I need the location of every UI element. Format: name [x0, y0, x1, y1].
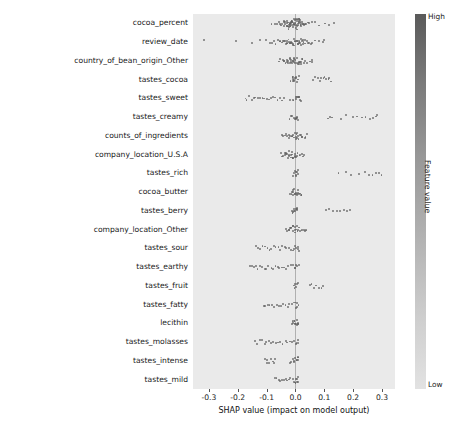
scatter-row	[193, 332, 395, 352]
scatter-row	[193, 88, 395, 108]
data-point	[294, 267, 296, 269]
data-point	[264, 343, 266, 345]
data-point	[297, 246, 299, 248]
y-tick-label: cocoa_butter	[139, 187, 188, 197]
colorbar-title: Feature value	[423, 160, 432, 213]
data-point	[296, 132, 298, 134]
data-point	[300, 63, 302, 65]
data-point	[338, 172, 340, 174]
data-point	[298, 75, 300, 77]
y-tick-label: tastes_sweet	[139, 93, 188, 103]
data-point	[318, 40, 320, 42]
data-point	[296, 155, 298, 157]
scatter-row	[193, 238, 395, 258]
data-point	[279, 97, 281, 99]
data-point	[314, 21, 316, 23]
data-point	[267, 265, 269, 267]
data-point	[235, 40, 237, 42]
data-point	[343, 209, 345, 211]
shap-summary-plot: cocoa_percentreview_datecountry_of_bean_…	[0, 0, 464, 434]
data-point	[311, 59, 313, 61]
scatter-row	[193, 126, 395, 146]
data-point	[292, 264, 294, 266]
data-point	[293, 340, 295, 342]
x-tick-label: 0.0	[289, 393, 301, 402]
scatter-row	[193, 145, 395, 165]
data-point	[306, 229, 308, 231]
data-point	[278, 267, 280, 269]
data-point	[276, 377, 278, 379]
data-point	[271, 23, 273, 25]
data-point	[292, 250, 294, 252]
data-point	[296, 306, 298, 308]
data-point	[295, 76, 297, 78]
data-point	[264, 246, 266, 248]
data-point	[319, 80, 321, 82]
scatter-row	[193, 313, 395, 333]
data-point	[263, 98, 265, 100]
data-point	[301, 136, 303, 138]
scatter-row	[193, 70, 395, 90]
data-point	[356, 116, 358, 118]
data-point	[292, 26, 294, 28]
x-tick-label: 0.2	[347, 393, 359, 402]
data-point	[339, 210, 341, 212]
data-point	[328, 208, 330, 210]
data-point	[246, 99, 248, 101]
data-point	[333, 22, 335, 24]
data-point	[272, 341, 274, 343]
data-point	[266, 362, 268, 364]
data-point	[314, 40, 316, 42]
data-point	[265, 39, 267, 41]
data-point	[281, 100, 283, 102]
data-point	[294, 232, 296, 234]
data-point	[282, 303, 284, 305]
scatter-row	[193, 107, 395, 127]
scatter-row	[193, 51, 395, 71]
data-point	[336, 210, 338, 212]
data-point	[287, 265, 289, 267]
x-tick-label: 0.3	[376, 393, 388, 402]
data-point	[298, 250, 300, 252]
data-point	[271, 42, 273, 44]
data-point	[296, 209, 298, 211]
data-point	[277, 99, 279, 101]
data-point	[369, 118, 371, 120]
data-point	[279, 249, 281, 251]
y-tick-label: tastes_sour	[144, 243, 188, 253]
data-point	[276, 23, 278, 25]
data-point	[274, 97, 276, 99]
x-tick-mark	[238, 389, 239, 392]
data-point	[281, 245, 283, 247]
data-point	[268, 362, 270, 364]
data-point	[358, 173, 360, 175]
y-tick-label: tastes_intense	[133, 356, 188, 366]
data-point	[297, 323, 299, 325]
data-point	[306, 133, 308, 135]
y-tick-label: tastes_earthy	[136, 262, 188, 272]
data-point	[255, 265, 257, 267]
data-point	[251, 42, 253, 44]
data-point	[262, 245, 264, 247]
data-point	[345, 171, 347, 173]
data-point	[376, 114, 378, 116]
data-point	[312, 79, 314, 81]
x-tick-label: -0.3	[201, 393, 216, 402]
data-point	[288, 303, 290, 305]
data-point	[375, 172, 377, 174]
y-tick-label: tastes_molasses	[126, 337, 188, 347]
data-point	[297, 282, 299, 284]
y-tick-label: country_of_bean_origin_Other	[74, 56, 188, 66]
data-point	[296, 81, 298, 83]
data-point	[345, 114, 347, 116]
data-point	[295, 98, 297, 100]
scatter-row	[193, 276, 395, 296]
data-point	[251, 99, 253, 101]
scatter-row	[193, 220, 395, 240]
data-point	[331, 117, 333, 119]
data-point	[311, 61, 313, 63]
y-tick-label: company_location_U.S.A	[95, 150, 188, 160]
data-point	[300, 100, 302, 102]
data-point	[317, 77, 319, 79]
data-point	[295, 286, 297, 288]
